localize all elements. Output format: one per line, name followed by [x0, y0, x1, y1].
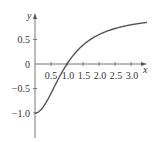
y-axis-arrow-icon	[33, 13, 37, 19]
function-curve	[35, 22, 147, 113]
y-axis-label: y	[26, 10, 32, 21]
x-axis-label: x	[142, 64, 148, 75]
x-tick-label: 0.5	[45, 70, 58, 81]
x-tick-label: 1.5	[78, 70, 91, 81]
y-tick-label: −1.0	[12, 108, 30, 119]
x-tick-label: 3.0	[126, 70, 139, 81]
y-tick-label: 0	[25, 59, 30, 70]
y-tick-label: −0.5	[12, 83, 30, 94]
x-tick-label: 2.5	[110, 70, 123, 81]
y-tick-label: 0.5	[18, 34, 31, 45]
x-tick-label: 2.0	[94, 70, 107, 81]
x-tick-label: 1.0	[62, 70, 75, 81]
function-plot: y x 0.5 0 −0.5 −1.0 0.5 1.0 1.5 2.0 2.5 …	[0, 0, 157, 142]
